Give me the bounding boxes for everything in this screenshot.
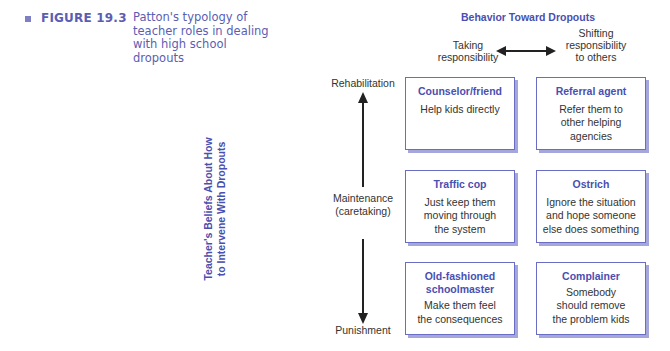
role-description-line: the consequences	[406, 313, 514, 327]
role-description: Make them feel the consequences	[406, 299, 514, 326]
role-description-line: Just keep them	[406, 196, 514, 210]
role-description: Refer them to other helping agencies	[537, 103, 645, 144]
role-title: Traffic cop	[406, 178, 514, 191]
figure-bullet-icon	[25, 16, 31, 22]
column-axis-title: Behavior Toward Dropouts	[448, 11, 608, 23]
role-title-line: Complainer	[537, 270, 645, 283]
figure-number: FIGURE 19.3	[41, 11, 127, 25]
role-description-line: the problem kids	[537, 313, 645, 327]
figure-caption: Patton's typology of teacher roles in de…	[133, 11, 253, 65]
role-title: Old-fashioned schoolmaster	[406, 270, 514, 295]
role-description-line: agencies	[537, 130, 645, 144]
row-label-maintenance: Maintenance (caretaking)	[328, 192, 398, 217]
caption-line: with high school	[133, 38, 253, 52]
role-description-line: Refer them to	[537, 103, 645, 117]
row-label-rehabilitation: Rehabilitation	[328, 77, 398, 90]
label-line: Maintenance	[328, 192, 398, 205]
role-title-line: Ostrich	[537, 178, 645, 191]
double-arrow-horizontal-icon	[496, 45, 556, 57]
role-box-referral-agent: Referral agent Refer them to other helpi…	[536, 77, 646, 150]
role-box-counselor-friend: Counselor/friend Help kids directly	[405, 77, 515, 150]
role-description-line: moving through	[406, 209, 514, 223]
role-description-line: Help kids directly	[406, 103, 514, 117]
role-box-complainer: Complainer Somebody should remove the pr…	[536, 262, 646, 335]
role-description-line: Somebody	[537, 286, 645, 300]
role-description: Somebody should remove the problem kids	[537, 286, 645, 327]
role-description-line: the system	[406, 223, 514, 237]
label-line: (caretaking)	[328, 205, 398, 218]
role-title-line: schoolmaster	[406, 283, 514, 296]
role-box-ostrich: Ostrich Ignore the situation and hope so…	[536, 170, 646, 243]
axis-title-line: Teacher's Beliefs About How	[202, 119, 215, 299]
role-title: Referral agent	[537, 85, 645, 98]
role-box-traffic-cop: Traffic cop Just keep them moving throug…	[405, 170, 515, 243]
label-line: Shifting	[556, 27, 636, 39]
caption-line: teacher roles in dealing	[133, 25, 253, 39]
column-label-shifting-responsibility: Shifting responsibility to others	[556, 27, 636, 63]
role-title-line: Traffic cop	[406, 178, 514, 191]
role-description-line: else does something	[537, 223, 645, 237]
role-description: Help kids directly	[406, 103, 514, 117]
axis-title-line: to Intervene With Dropouts	[215, 119, 228, 299]
role-title-line: Referral agent	[537, 85, 645, 98]
caption-line: dropouts	[133, 52, 253, 66]
role-description-line: Make them feel	[406, 299, 514, 313]
role-title: Complainer	[537, 270, 645, 283]
role-box-old-fashioned-schoolmaster: Old-fashioned schoolmaster Make them fee…	[405, 262, 515, 335]
role-title: Counselor/friend	[406, 85, 514, 98]
role-description: Ignore the situation and hope someone el…	[537, 196, 645, 237]
row-label-punishment: Punishment	[328, 324, 398, 337]
row-axis-title: Teacher's Beliefs About How to Intervene…	[202, 119, 228, 299]
label-line: to others	[556, 51, 636, 63]
role-description-line: should remove	[537, 299, 645, 313]
label-line: responsibility	[556, 39, 636, 51]
role-description: Just keep them moving through the system	[406, 196, 514, 237]
role-title-line: Old-fashioned	[406, 270, 514, 283]
role-description-line: Ignore the situation	[537, 196, 645, 210]
role-title: Ostrich	[537, 178, 645, 191]
role-description-line: and hope someone	[537, 209, 645, 223]
role-title-line: Counselor/friend	[406, 85, 514, 98]
role-description-line: other helping	[537, 116, 645, 130]
caption-line: Patton's typology of	[133, 11, 253, 25]
